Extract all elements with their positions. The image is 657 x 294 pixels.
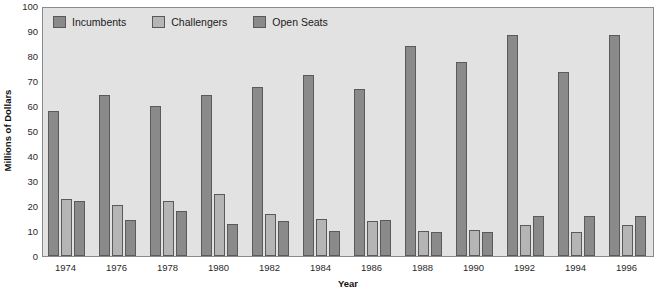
bar[interactable] (520, 225, 532, 256)
x-tick-label: 1994 (565, 262, 586, 273)
bar[interactable] (482, 232, 494, 256)
bar[interactable] (571, 232, 583, 256)
bar[interactable] (214, 194, 226, 257)
bar-group (451, 8, 502, 256)
bar-group (298, 8, 349, 256)
y-tick-label: 40 (27, 152, 38, 162)
bar[interactable] (329, 231, 341, 256)
x-tick-label: 1996 (616, 262, 637, 273)
y-tick-label: 100 (22, 2, 38, 12)
bar[interactable] (150, 106, 162, 256)
bar[interactable] (622, 225, 634, 256)
legend-item-open-seats[interactable]: Open Seats (253, 16, 327, 28)
bar[interactable] (354, 89, 366, 257)
bar[interactable] (609, 35, 621, 256)
bar[interactable] (456, 62, 468, 256)
bar-group (145, 8, 196, 256)
y-tick-label: 60 (27, 102, 38, 112)
y-tick-label: 50 (27, 127, 38, 137)
bar-group (247, 8, 298, 256)
legend-label: Open Seats (272, 16, 327, 28)
bar[interactable] (533, 216, 545, 256)
x-tick-label: 1990 (463, 262, 484, 273)
bar[interactable] (303, 75, 315, 256)
y-axis-tick-labels: 0102030405060708090100 (16, 0, 40, 260)
bar-group (196, 8, 247, 256)
x-axis-tick-labels: 1974197619781980198219841986198819901992… (42, 262, 654, 278)
legend-item-incumbents[interactable]: Incumbents (53, 16, 126, 28)
y-tick-label: 0 (33, 252, 38, 262)
bar[interactable] (48, 111, 60, 256)
y-tick-label: 30 (27, 177, 38, 187)
legend-swatch-icon (152, 16, 165, 28)
y-axis-title: Millions of Dollars (0, 0, 16, 260)
bar-group (94, 8, 145, 256)
bar[interactable] (99, 95, 111, 256)
x-tick-label: 1980 (208, 262, 229, 273)
bar-group (502, 8, 553, 256)
bar[interactable] (74, 201, 86, 256)
bar[interactable] (278, 221, 290, 256)
y-axis-title-text: Millions of Dollars (3, 89, 14, 171)
x-tick-label: 1986 (361, 262, 382, 273)
bar[interactable] (418, 231, 430, 256)
legend-swatch-icon (53, 16, 66, 28)
y-tick-label: 20 (27, 202, 38, 212)
bar[interactable] (176, 211, 188, 256)
x-axis-title: Year (42, 278, 654, 289)
x-tick-label: 1984 (310, 262, 331, 273)
bar[interactable] (125, 220, 137, 256)
bar[interactable] (367, 221, 379, 256)
y-tick-label: 80 (27, 52, 38, 62)
bar-group (604, 8, 655, 256)
bar-group (43, 8, 94, 256)
chart-legend: IncumbentsChallengersOpen Seats (53, 16, 328, 28)
bar[interactable] (405, 46, 417, 256)
x-tick-label: 1988 (412, 262, 433, 273)
bar[interactable] (635, 216, 647, 256)
bar[interactable] (584, 216, 596, 256)
legend-item-challengers[interactable]: Challengers (152, 16, 227, 28)
x-tick-label: 1982 (259, 262, 280, 273)
legend-label: Incumbents (72, 16, 126, 28)
bar-group (553, 8, 604, 256)
x-tick-label: 1976 (106, 262, 127, 273)
bar[interactable] (61, 199, 73, 257)
bar[interactable] (431, 232, 443, 256)
bar[interactable] (469, 230, 481, 256)
bar[interactable] (252, 87, 264, 256)
x-tick-label: 1978 (157, 262, 178, 273)
legend-swatch-icon (253, 16, 266, 28)
bar[interactable] (265, 214, 277, 257)
bar[interactable] (163, 201, 175, 256)
plot-area: IncumbentsChallengersOpen Seats (42, 7, 654, 257)
bar-group (400, 8, 451, 256)
x-tick-label: 1974 (55, 262, 76, 273)
bar[interactable] (112, 205, 124, 256)
bar[interactable] (507, 35, 519, 256)
bar[interactable] (316, 219, 328, 257)
y-tick-label: 70 (27, 77, 38, 87)
bar[interactable] (380, 220, 392, 256)
bar[interactable] (201, 95, 213, 256)
legend-label: Challengers (171, 16, 227, 28)
bar[interactable] (227, 224, 239, 257)
y-tick-label: 10 (27, 227, 38, 237)
bar-group (349, 8, 400, 256)
bar[interactable] (558, 72, 570, 256)
bar-chart: Millions of Dollars 01020304050607080901… (0, 0, 657, 294)
plot-inner (43, 8, 653, 256)
x-tick-label: 1992 (514, 262, 535, 273)
y-tick-label: 90 (27, 27, 38, 37)
